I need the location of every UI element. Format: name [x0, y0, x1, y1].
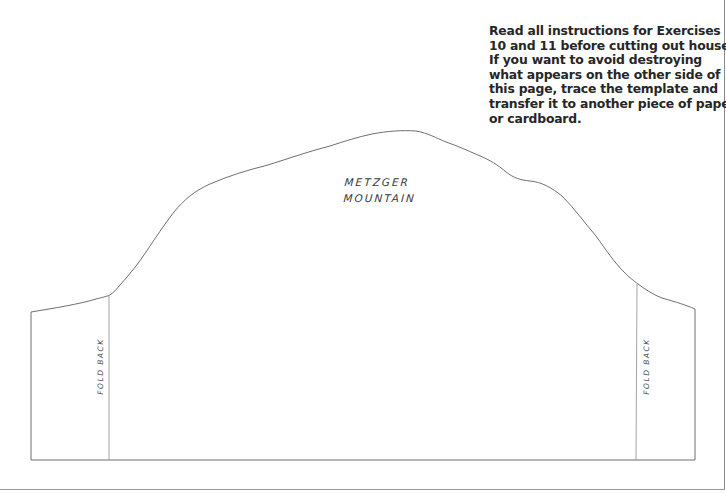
- mountain-name-line1: METZGER: [344, 174, 418, 190]
- fold-back-label-left: FOLD BACK: [96, 336, 105, 398]
- mountain-name-line2: MOUNTAIN: [343, 190, 417, 206]
- fold-line-right: [636, 284, 637, 460]
- fold-back-label-right: FOLD BACK: [642, 336, 651, 398]
- worksheet-page: Read all instructions for Exercises 10 a…: [0, 0, 725, 490]
- mountain-cutout-template: [0, 0, 726, 493]
- mountain-name-label: METZGER MOUNTAIN: [343, 174, 418, 206]
